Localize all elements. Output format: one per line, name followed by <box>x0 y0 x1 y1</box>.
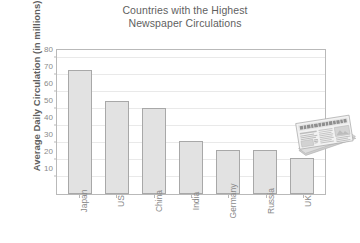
bar-slot <box>172 50 209 194</box>
bar-series <box>57 50 325 194</box>
y-axis-title: Average Daily Circulation (in millions) <box>31 1 42 172</box>
y-tick-label: 70 <box>44 62 53 71</box>
x-tick-label-uk: UK <box>303 195 313 207</box>
x-tick-slot: China <box>135 195 172 243</box>
bar-uk <box>290 158 314 194</box>
x-tick-slot: India <box>172 195 209 243</box>
bar-slot <box>247 50 284 194</box>
x-tick-label-russia: Russia <box>266 188 276 214</box>
x-tick-slot: Germany <box>210 195 247 243</box>
y-tick-label: 30 <box>44 130 53 139</box>
bar-us <box>105 101 129 194</box>
x-tick-label-germany: Germany <box>228 184 238 219</box>
y-tick-label: 50 <box>44 96 53 105</box>
plot-inner: 1020304050607080 <box>57 50 325 194</box>
bar-slot <box>284 50 321 194</box>
bar-slot <box>135 50 172 194</box>
bar-slot <box>61 50 98 194</box>
y-tick-label: 60 <box>44 79 53 88</box>
x-tick-slot: UK <box>285 195 322 243</box>
x-axis-labels: JapanUSChinaIndiaGermanyRussiaUK <box>56 195 326 243</box>
bar-china <box>142 108 166 194</box>
y-tick-label: 10 <box>44 164 53 173</box>
x-tick-slot: Russia <box>247 195 284 243</box>
bar-japan <box>68 70 92 194</box>
chart-title: Countries with the Highest Newspaper Cir… <box>60 4 310 30</box>
bar-india <box>179 141 203 194</box>
y-tick-label: 80 <box>44 45 53 54</box>
x-tick-slot: Japan <box>60 195 97 243</box>
x-tick-label-japan: Japan <box>79 189 89 212</box>
bar-slot <box>210 50 247 194</box>
x-tick-slot: US <box>97 195 134 243</box>
bar-slot <box>98 50 135 194</box>
y-axis-title-wrapper: Average Daily Circulation (in millions) <box>26 0 42 176</box>
plot-area: 1020304050607080 <box>56 49 326 195</box>
y-tick-label: 40 <box>44 113 53 122</box>
x-tick-label-china: China <box>154 190 164 212</box>
y-tick-label: 20 <box>44 147 53 156</box>
x-tick-label-india: India <box>191 192 201 210</box>
x-tick-label-us: US <box>116 195 126 207</box>
